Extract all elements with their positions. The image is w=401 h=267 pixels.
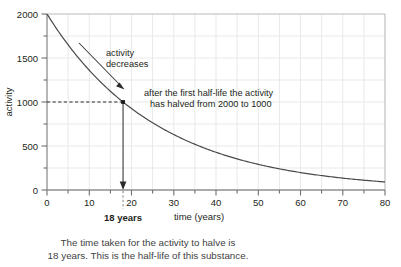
figure-background (0, 0, 401, 267)
x-tick-label-10: 10 (84, 197, 95, 208)
x-tick-label-80: 80 (380, 197, 391, 208)
annotation-activity-decreases-line1: activity (106, 48, 134, 58)
y-tick-label-1000: 1000 (17, 97, 38, 108)
chart-svg: 2000 1500 1000 500 0 0 10 20 30 40 50 60… (0, 0, 401, 267)
x-tick-label-20: 20 (126, 197, 137, 208)
x-tick-label-70: 70 (338, 197, 349, 208)
x-tick-label-0: 0 (44, 197, 49, 208)
caption-line-2: 18 years. This is the half-life of this … (48, 250, 249, 261)
x-tick-label-40: 40 (211, 197, 222, 208)
caption-line-1: The time taken for the activity to halve… (61, 237, 236, 248)
annotation-half-life-line2: has halved from 2000 to 1000 (150, 99, 272, 109)
half-life-value-label: 18 years (104, 212, 142, 223)
half-life-decay-figure: 2000 1500 1000 500 0 0 10 20 30 40 50 60… (0, 0, 401, 267)
y-tick-label-1500: 1500 (17, 53, 38, 64)
x-tick-label-60: 60 (295, 197, 306, 208)
y-tick-label-2000: 2000 (17, 9, 38, 20)
annotation-activity-decreases-line2: decreases (106, 59, 149, 69)
x-tick-label-30: 30 (169, 197, 180, 208)
y-tick-label-500: 500 (22, 141, 38, 152)
x-axis-title: time (years) (174, 211, 224, 222)
y-tick-label-0: 0 (33, 185, 38, 196)
half-life-point-marker (121, 100, 125, 104)
x-tick-label-50: 50 (253, 197, 264, 208)
y-axis-title: activity (3, 87, 14, 116)
annotation-half-life-line1: after the first half-life the activity (144, 88, 274, 98)
